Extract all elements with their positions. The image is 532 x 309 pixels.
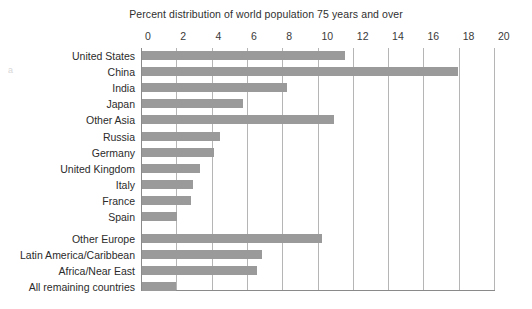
- category-label-india: India: [0, 80, 135, 96]
- chart-row: Africa/Near East: [0, 263, 532, 279]
- x-tick-label-0: 0: [145, 30, 151, 43]
- x-tick-label-6: 6: [251, 30, 257, 43]
- chart-row: China: [0, 64, 532, 80]
- category-label-china: China: [0, 64, 135, 80]
- chart-row: Russia: [0, 129, 532, 145]
- bar-africa-near-east: [142, 266, 257, 275]
- bar-japan: [142, 99, 243, 108]
- category-label-germany: Germany: [0, 145, 135, 161]
- bar-chart: Percent distribution of world population…: [0, 0, 532, 309]
- chart-row: India: [0, 80, 532, 96]
- bar-italy: [142, 180, 193, 189]
- chart-row: Latin America/Caribbean: [0, 247, 532, 263]
- category-label-all-remaining-countries: All remaining countries: [0, 279, 135, 295]
- bar-spain: [142, 212, 177, 221]
- bar-india: [142, 83, 287, 92]
- bar-united-states: [142, 51, 345, 60]
- category-label-russia: Russia: [0, 129, 135, 145]
- x-tick-label-4: 4: [216, 30, 222, 43]
- x-tick-label-8: 8: [286, 30, 292, 43]
- bar-latin-america-caribbean: [142, 250, 262, 259]
- category-label-spain: Spain: [0, 209, 135, 225]
- chart-row: Spain: [0, 209, 532, 225]
- chart-row: United States: [0, 48, 532, 64]
- chart-row: All remaining countries: [0, 279, 532, 295]
- chart-row: Other Asia: [0, 112, 532, 128]
- chart-rows: United StatesChinaIndiaJapanOther AsiaRu…: [0, 48, 532, 291]
- chart-row: Other Europe: [0, 231, 532, 247]
- chart-row: Italy: [0, 177, 532, 193]
- x-axis-tick-labels: 02468101214161820: [0, 30, 532, 46]
- bar-germany: [142, 148, 214, 157]
- bar-other-asia: [142, 115, 334, 124]
- bar-other-europe: [142, 234, 322, 243]
- bar-china: [142, 67, 458, 76]
- bar-all-remaining-countries: [142, 282, 176, 291]
- x-tick-label-18: 18: [463, 30, 475, 43]
- category-label-other-europe: Other Europe: [0, 231, 135, 247]
- chart-row: Japan: [0, 96, 532, 112]
- category-label-japan: Japan: [0, 96, 135, 112]
- chart-row: Germany: [0, 145, 532, 161]
- category-label-africa-near-east: Africa/Near East: [0, 263, 135, 279]
- x-tick-label-20: 20: [498, 30, 510, 43]
- category-label-united-kingdom: United Kingdom: [0, 161, 135, 177]
- category-label-united-states: United States: [0, 48, 135, 64]
- x-tick-label-14: 14: [392, 30, 404, 43]
- x-tick-label-10: 10: [322, 30, 334, 43]
- bar-france: [142, 196, 191, 205]
- chart-title: Percent distribution of world population…: [0, 8, 532, 20]
- x-tick-label-16: 16: [427, 30, 439, 43]
- category-label-italy: Italy: [0, 177, 135, 193]
- category-label-other-asia: Other Asia: [0, 112, 135, 128]
- bar-russia: [142, 132, 220, 141]
- category-label-france: France: [0, 193, 135, 209]
- x-tick-label-12: 12: [357, 30, 369, 43]
- chart-row: United Kingdom: [0, 161, 532, 177]
- chart-row: France: [0, 193, 532, 209]
- category-label-latin-america-caribbean: Latin America/Caribbean: [0, 247, 135, 263]
- bar-united-kingdom: [142, 164, 200, 173]
- x-tick-label-2: 2: [180, 30, 186, 43]
